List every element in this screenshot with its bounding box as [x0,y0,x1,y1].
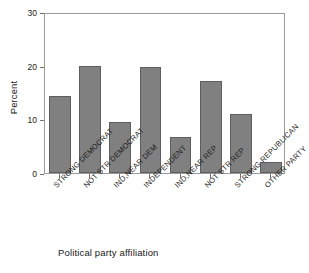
plot-area [44,13,285,174]
y-tick-mark [40,13,44,14]
y-tick-label: 30 [11,8,37,18]
y-tick-mark [40,174,44,175]
bar-chart: Percent 0102030 STRONG DEMOCRATNOT STR D… [0,0,309,273]
y-tick-label: 20 [11,62,37,72]
y-tick-mark [40,120,44,121]
y-tick-mark [40,67,44,68]
y-tick-label: 0 [11,169,37,179]
x-axis-title: Political party affiliation [58,247,159,258]
bars-layer [45,14,284,173]
bar [49,96,71,173]
y-tick-label: 10 [11,115,37,125]
